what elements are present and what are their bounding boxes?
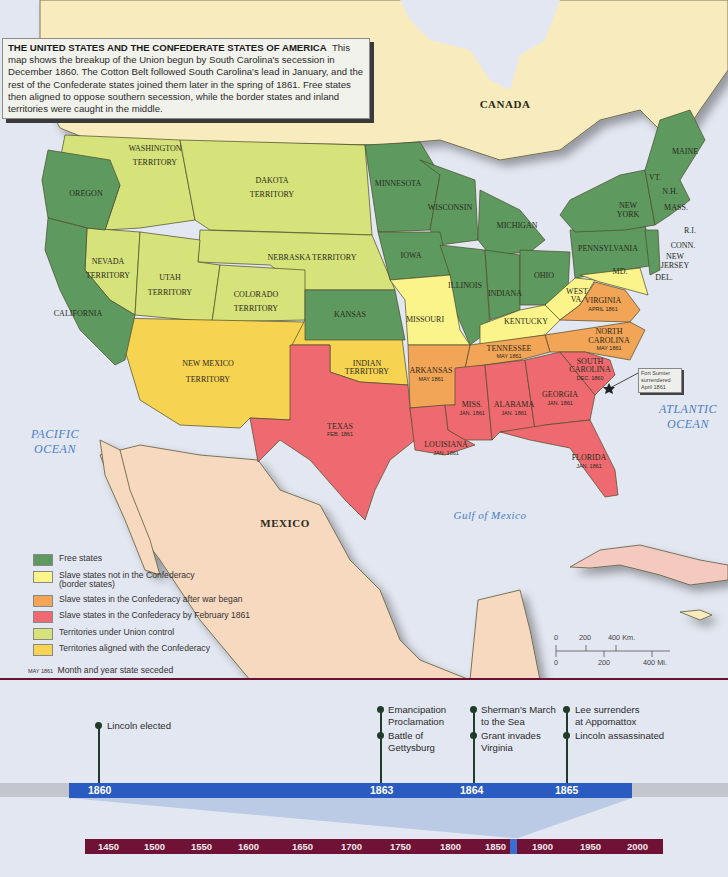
label-new-york-2: YORK xyxy=(617,210,640,219)
timeline-year-1864: 1864 xyxy=(460,784,483,796)
event-line: Emancipation xyxy=(388,704,446,716)
label-mexico: MEXICO xyxy=(260,517,309,529)
timeline-marker xyxy=(95,722,102,729)
legend-item-by-feb-1861: Slave states in the Confederacy by Febru… xyxy=(33,611,250,628)
map-caption: THE UNITED STATES AND THE CONFEDERATE ST… xyxy=(2,38,370,119)
legend-label-2: (border states) xyxy=(59,580,195,590)
timeline-gray-left xyxy=(0,783,69,797)
timeline-bar xyxy=(69,783,632,798)
label-tennessee: TENNESSEE xyxy=(487,344,532,353)
timeline-marker xyxy=(563,732,570,739)
label-nevada-2: TERRITORY xyxy=(86,271,131,280)
timeline-stem-1860 xyxy=(98,725,100,783)
label-nc-2: CAROLINA xyxy=(588,336,630,345)
label-illinois: ILLINOIS xyxy=(448,281,482,290)
label-md: MD. xyxy=(613,267,628,276)
label-missouri: MISSOURI xyxy=(406,315,445,324)
label-canada: CANADA xyxy=(480,98,531,110)
label-oregon: OREGON xyxy=(69,189,103,198)
era-label: 1800 xyxy=(440,841,461,852)
label-del: DEL. xyxy=(655,273,673,282)
label-minnesota: MINNESOTA xyxy=(375,179,422,188)
scale-bar: 0 200 400 Km. 0 200 400 Mi. xyxy=(550,633,670,669)
label-texas: TEXAS xyxy=(327,422,353,431)
label-nebraska: NEBRASKA TERRITORY xyxy=(268,253,357,262)
legend-swatch-after-war xyxy=(33,595,53,607)
timeline-stem-1864 xyxy=(473,710,475,783)
scale-mi-400: 400 Mi. xyxy=(643,658,667,667)
label-pacific-1: PACIFIC xyxy=(30,427,79,441)
fort-sumter-line3: April 1861 xyxy=(641,384,679,391)
era-label: 1900 xyxy=(532,841,553,852)
label-wisconsin: WISCONSIN xyxy=(428,203,473,212)
event-line: Lee surrenders xyxy=(575,704,640,716)
label-colorado-1: COLORADO xyxy=(234,290,279,299)
label-florida: FLORIDA xyxy=(572,453,607,462)
timeline-marker xyxy=(563,706,570,713)
indiana xyxy=(485,250,520,320)
legend-item-union-territory: Territories under Union control xyxy=(33,628,250,645)
event-line: Proclamation xyxy=(388,716,446,728)
event-line: Lincoln assassinated xyxy=(575,730,664,742)
label-mississippi: MISS. xyxy=(462,400,483,409)
timeline-event-lee-surrenders: Lee surrenders at Appomattox xyxy=(575,704,640,727)
label-dakota-1: DAKOTA xyxy=(255,176,288,185)
label-new-jersey-1: NEW xyxy=(666,252,685,261)
legend-item-after-war: Slave states in the Confederacy after wa… xyxy=(33,595,250,612)
label-ri: R.I. xyxy=(684,226,696,235)
label-florida-date: JAN. 1861 xyxy=(576,463,602,469)
timeline-stem-1865 xyxy=(566,710,568,783)
label-nevada-1: NEVADA xyxy=(92,257,125,266)
label-atlantic-1: ATLANTIC xyxy=(658,402,718,416)
label-mass: MASS. xyxy=(664,203,688,212)
label-tennessee-date: MAY 1861 xyxy=(496,353,521,359)
label-new-jersey-2: JERSEY xyxy=(661,261,690,270)
label-nc-1: NORTH xyxy=(595,327,622,336)
era-label: 1450 xyxy=(98,841,119,852)
label-washington-1: WASHINGTON xyxy=(128,144,181,153)
era-label: 1600 xyxy=(238,841,259,852)
legend-swatch-free xyxy=(33,554,53,566)
section-divider xyxy=(0,678,728,680)
event-line: at Appomattox xyxy=(575,716,640,728)
label-dakota-2: TERRITORY xyxy=(250,190,295,199)
label-pennsylvania: PENNSYLVANIA xyxy=(578,244,638,253)
dakota-territory xyxy=(180,140,372,235)
label-sc-2: CAROLINA xyxy=(569,365,611,374)
label-iowa: IOWA xyxy=(401,251,422,260)
fort-sumter-line1: Fort Sumter xyxy=(641,370,679,377)
legend-item-confed-territory: Territories aligned with the Confederacy xyxy=(33,644,250,661)
label-maine: MAINE xyxy=(672,147,698,156)
caption-title: THE UNITED STATES AND THE CONFEDERATE ST… xyxy=(8,42,327,53)
label-virginia-date: APRIL 1861 xyxy=(588,306,617,312)
fort-sumter-callout: Fort Sumter surrendered April 1861 xyxy=(638,368,682,393)
label-indian-2: TERRITORY xyxy=(345,367,390,376)
label-indiana: INDIANA xyxy=(488,289,522,298)
legend-note-text: Month and year state seceded xyxy=(58,665,174,675)
event-line: Gettysburg xyxy=(388,742,435,754)
event-line: Virginia xyxy=(481,742,541,754)
event-line: Grant invades xyxy=(481,730,541,742)
event-line: Lincoln elected xyxy=(107,720,171,732)
timeline-year-1860: 1860 xyxy=(88,784,111,796)
label-louisiana: LOUISIANA xyxy=(424,440,468,449)
era-label: 1850 xyxy=(485,841,506,852)
label-california: CALIFORNIA xyxy=(54,309,103,318)
label-nc-date: MAY 1861 xyxy=(596,345,621,351)
timeline-marker xyxy=(470,706,477,713)
label-georgia: GEORGIA xyxy=(542,390,578,399)
legend-item-border: Slave states not in the Confederacy (bor… xyxy=(33,571,250,595)
label-conn: CONN. xyxy=(671,241,696,250)
timeline-year-1865: 1865 xyxy=(555,784,578,796)
label-arkansas: ARKANSAS xyxy=(409,366,452,375)
timeline-event-gettysburg: Battle of Gettysburg xyxy=(388,730,435,753)
label-sc-date: DEC. 1860 xyxy=(577,375,604,381)
timeline-zoom-funnel xyxy=(0,798,728,838)
legend-item-free: Free states xyxy=(33,554,250,571)
label-alabama-date: JAN. 1861 xyxy=(501,410,527,416)
label-gulf-of-mexico: Gulf of Mexico xyxy=(454,509,527,521)
timeline-year-1863: 1863 xyxy=(370,784,393,796)
label-arkansas-date: MAY 1861 xyxy=(418,376,443,382)
event-line: Battle of xyxy=(388,730,435,742)
scale-mi-0: 0 xyxy=(554,658,558,667)
